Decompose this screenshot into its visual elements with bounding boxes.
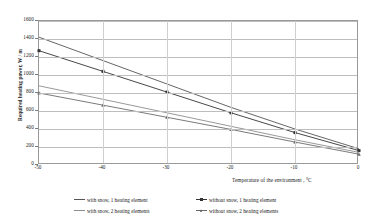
- gridline-horizontal: [39, 21, 357, 22]
- chart-legend: with snow, 1 heating elementwithout snow…: [74, 194, 336, 216]
- legend-item[interactable]: with snow, 1 heating element: [74, 197, 196, 203]
- legend-item-label: with snow, 1 heating element: [87, 197, 148, 203]
- legend-item[interactable]: with snow, 2 heating elements: [74, 208, 196, 214]
- gridline-horizontal: [39, 129, 357, 130]
- data-point-marker: [38, 49, 41, 52]
- legend-item[interactable]: without snow, 1 heating element: [196, 197, 336, 203]
- x-axis-tick-label: -10: [291, 165, 298, 170]
- x-axis-tick-label: 0: [357, 165, 360, 170]
- x-axis-tick-label: -30: [163, 165, 170, 170]
- y-axis-tick-label: 600: [26, 107, 34, 112]
- legend-swatch-icon: [74, 208, 85, 214]
- legend-swatch-icon: [196, 197, 207, 203]
- y-axis-tick-label: 1000: [23, 71, 34, 76]
- legend-item-label: without snow, 1 heating element: [209, 197, 276, 203]
- gridline-horizontal: [39, 39, 357, 40]
- chart-container: Required heating power, W / m 0200400600…: [0, 0, 369, 221]
- y-axis-tick-label: 400: [26, 125, 34, 130]
- gridline-horizontal: [39, 57, 357, 58]
- legend-swatch-icon: [196, 208, 207, 214]
- y-axis-tick-label: 200: [26, 143, 34, 148]
- x-axis-tick-label: -20: [227, 165, 234, 170]
- series-line: [39, 51, 359, 151]
- gridline-horizontal: [39, 147, 357, 148]
- y-axis-tick-label: 1600: [23, 17, 34, 22]
- y-axis-tick-label: 1400: [23, 35, 34, 40]
- x-axis-tick-labels: -50-40-30-20-100: [38, 165, 358, 175]
- gridline-vertical: [231, 21, 232, 163]
- gridline-vertical: [167, 21, 168, 163]
- x-axis-tick-label: -40: [99, 165, 106, 170]
- gridline-horizontal: [39, 111, 357, 112]
- gridline-horizontal: [39, 93, 357, 94]
- x-axis-tick-label: -50: [35, 165, 42, 170]
- gridline-horizontal: [39, 75, 357, 76]
- y-axis-tick-label: 1200: [23, 53, 34, 58]
- legend-item-label: without snow, 2 heating elements: [209, 208, 278, 214]
- gridline-vertical: [295, 21, 296, 163]
- legend-item-label: with snow, 2 heating elements: [87, 208, 150, 214]
- x-axis-title: Temperature of the environment , °C: [232, 177, 312, 183]
- y-axis-tick-labels: 02004006008001000120014001600: [0, 20, 38, 164]
- y-axis-tick-label: 800: [26, 89, 34, 94]
- plot-area: [38, 20, 358, 164]
- gridline-vertical: [103, 21, 104, 163]
- legend-swatch-icon: [74, 197, 85, 203]
- legend-item[interactable]: without snow, 2 heating elements: [196, 208, 336, 214]
- data-point-marker: [358, 149, 361, 152]
